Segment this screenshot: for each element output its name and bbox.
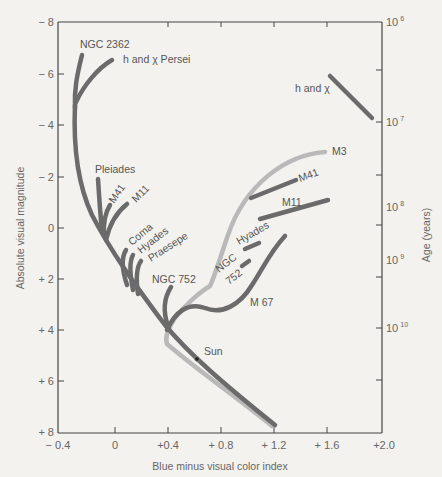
right-tick-label: 109: [386, 253, 404, 266]
m3-track: [166, 152, 325, 426]
y-tick-labels: − 8 − 6 − 4 − 2 0 + 2 + 4 + 6 + 8: [38, 16, 54, 438]
sun-marker: [195, 357, 200, 362]
label-m41: M41: [106, 181, 128, 205]
label-m11: M11: [129, 182, 151, 204]
right-tick-label: 1010: [386, 321, 408, 334]
x-tick-label: +2.0: [373, 439, 395, 451]
label-sun: Sun: [204, 345, 223, 357]
label-m11-giant: M11: [282, 196, 302, 208]
ngc752-giants: [242, 261, 249, 266]
x-tick-label: 0: [112, 439, 118, 451]
right-tick-label: 107: [386, 115, 404, 128]
x-tick-label: − 0.4: [46, 439, 71, 451]
right-ticks: [376, 70, 382, 380]
axes-frame: [58, 22, 382, 433]
hr-diagram: − 8 − 6 − 4 − 2 0 + 2 + 4 + 6 + 8 − 0.4 …: [0, 0, 442, 477]
label-m67: M 67: [250, 296, 274, 308]
x-tick-label: + 1.6: [315, 439, 340, 451]
x-tick-labels: − 0.4 0 +0.4 + 0.8 + 1.2 + 1.6 +2.0: [46, 439, 395, 451]
top-ticks: [168, 22, 327, 27]
y-tick-label: − 4: [38, 119, 54, 131]
x-tick-label: + 1.2: [262, 439, 287, 451]
x-tick-label: + 0.8: [209, 439, 234, 451]
y-tick-label: − 8: [38, 16, 54, 28]
y-tick-label: − 6: [38, 68, 54, 80]
x-tick-label: +0.4: [157, 439, 179, 451]
h-chi-giants: [330, 76, 372, 118]
label-ngc752: NGC 752: [152, 273, 196, 285]
label-h-chi: h and χ: [295, 82, 330, 94]
label-h-chi-persei: h and χ Persei: [123, 53, 190, 65]
x-ticks: [115, 427, 327, 433]
y-axis-title: Absolute visual magnitude: [14, 167, 26, 290]
hyades-branch: [130, 255, 133, 290]
y-tick-label: + 2: [38, 273, 54, 285]
label-pleiades: Pleiades: [95, 163, 135, 175]
label-ngc2362: NGC 2362: [80, 38, 130, 50]
y-tick-label: + 8: [38, 426, 54, 438]
y-tick-label: + 6: [38, 375, 54, 387]
hyades-giants: [245, 243, 259, 249]
label-m41-giant: M41: [297, 166, 320, 184]
y-ticks: [58, 74, 64, 381]
y-tick-label: + 4: [38, 324, 54, 336]
label-hyades-giant: Hyades: [234, 219, 271, 247]
right-axis-title: Age (years): [420, 208, 432, 262]
right-tick-label: 106: [386, 15, 404, 28]
dark-tracks: [75, 55, 372, 425]
label-m3: M3: [332, 145, 347, 157]
coma-branch: [123, 250, 127, 285]
right-tick-label: 108: [386, 200, 404, 213]
right-tick-labels: 106 107 108 109 1010: [386, 15, 408, 334]
y-tick-label: − 2: [38, 171, 54, 183]
y-tick-label: 0: [48, 222, 54, 234]
x-axis-title: Blue minus visual color index: [152, 460, 288, 472]
